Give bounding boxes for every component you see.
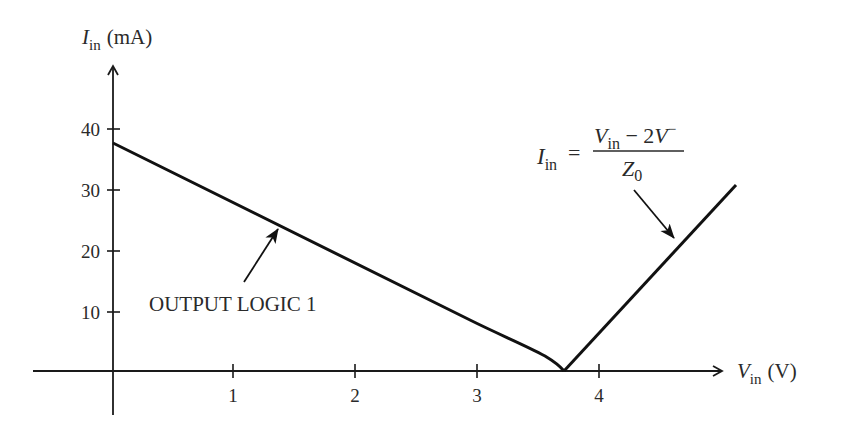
svg-text:Iin: Iin: [536, 144, 557, 173]
x-axis-title: Vin(V): [737, 359, 797, 387]
y-axis-title: Iin(mA): [81, 25, 152, 53]
y-tick-label: 30: [81, 180, 100, 201]
y-tick-label: 10: [81, 302, 100, 323]
x-tick-label: 2: [350, 385, 360, 406]
axes: [33, 66, 722, 415]
svg-text:Vin − 2V−: Vin − 2V−: [594, 121, 676, 152]
svg-text:Z0: Z0: [622, 156, 642, 184]
annotation-arrow-formula: [634, 190, 674, 238]
x-tick-label: 3: [472, 385, 482, 406]
chart: 40 30 20 10 1 2 3 4 Iin(mA) Vin(V) OUTPU…: [0, 0, 845, 429]
y-tick-label: 20: [81, 241, 100, 262]
x-tick-label: 1: [228, 385, 238, 406]
y-ticks: 40 30 20 10: [81, 119, 120, 323]
y-tick-label: 40: [81, 119, 100, 140]
series-output-logic-1: [113, 143, 564, 371]
series-formula-branch: [564, 185, 736, 371]
x-tick-label: 4: [594, 385, 604, 406]
svg-text:=: =: [568, 140, 580, 165]
annotation-arrow-logic1: [244, 229, 278, 282]
annotation-formula: Iin = Vin − 2V− Z0: [536, 121, 684, 184]
annotation-output-logic-1: OUTPUT LOGIC 1: [149, 292, 317, 316]
